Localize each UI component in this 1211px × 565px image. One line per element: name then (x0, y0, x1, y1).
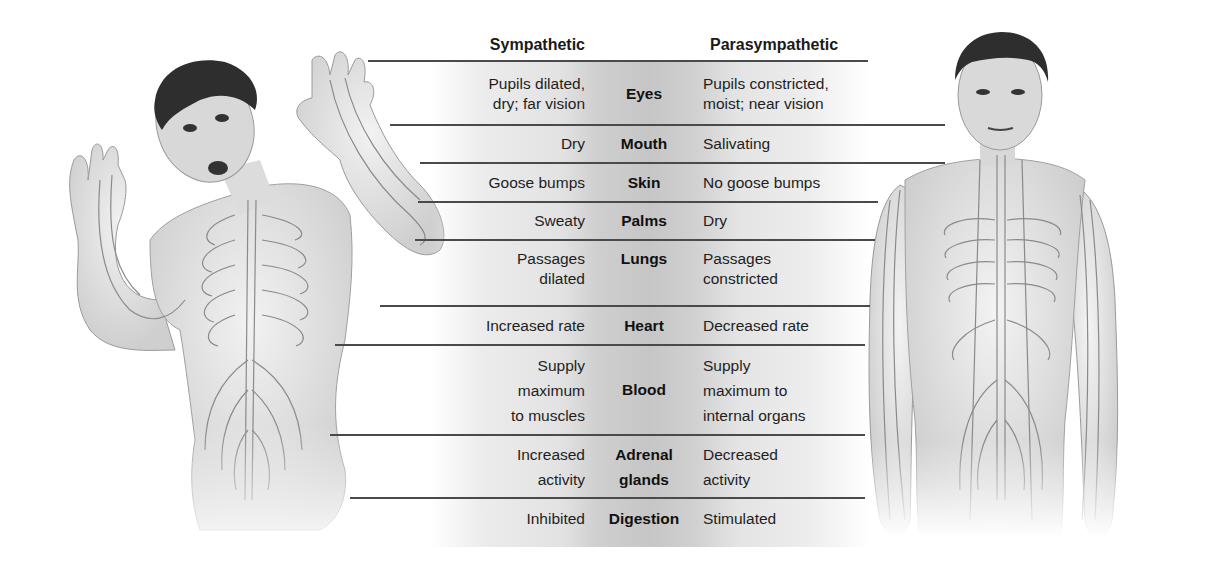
organ-label: Skin (585, 173, 703, 193)
parasympathetic-effect: Decreased activity (703, 442, 870, 492)
parasympathetic-effect: Dry (703, 211, 870, 231)
sympathetic-effect: Passages dilated (430, 249, 585, 289)
parasympathetic-effect: Decreased rate (703, 316, 870, 336)
parasympathetic-figure-illustration (850, 0, 1211, 565)
table-row-digestion: Inhibited Digestion Stimulated (430, 499, 870, 539)
table-row-lungs: Passages dilated Lungs Passages constric… (430, 241, 870, 305)
organ-label: Heart (585, 316, 703, 336)
sympathetic-figure-illustration (0, 0, 470, 565)
sympathetic-effect: Goose bumps (430, 173, 585, 193)
table-row-adrenal-glands: Increased activity Adrenal glands Decrea… (430, 436, 870, 497)
organ-label: Mouth (585, 134, 703, 154)
parasympathetic-effect: Passages constricted (703, 249, 870, 289)
parasympathetic-effect: Pupils constricted, moist; near vision (703, 74, 870, 114)
sympathetic-effect: Dry (430, 134, 585, 154)
parasympathetic-effect: No goose bumps (703, 173, 870, 193)
organ-label: Palms (585, 211, 703, 231)
sympathetic-column-header: Sympathetic (485, 36, 585, 54)
organ-label: Lungs (585, 249, 703, 269)
parasympathetic-effect: Supply maximum to internal organs (703, 353, 870, 428)
row-divider (368, 60, 868, 62)
table-row-blood: Supply maximum to muscles Blood Supply m… (430, 346, 870, 434)
organ-label: Adrenal glands (585, 442, 703, 492)
sympathetic-effect: Pupils dilated, dry; far vision (430, 74, 585, 114)
organ-label: Digestion (585, 509, 703, 529)
sympathetic-effect: Increased activity (430, 442, 585, 492)
organ-label: Blood (585, 380, 703, 400)
table-row-palms: Sweaty Palms Dry (430, 203, 870, 239)
sympathetic-effect: Sweaty (430, 211, 585, 231)
table-row-skin: Goose bumps Skin No goose bumps (430, 164, 870, 201)
parasympathetic-effect: Salivating (703, 134, 870, 154)
table-row-eyes: Pupils dilated, dry; far vision Eyes Pup… (430, 63, 870, 124)
parasympathetic-effect: Stimulated (703, 509, 870, 529)
organ-label: Eyes (585, 84, 703, 104)
sympathetic-effect: Supply maximum to muscles (430, 353, 585, 428)
diagram: Sympathetic Parasympathetic Pupils dilat… (0, 0, 1211, 565)
sympathetic-effect: Inhibited (430, 509, 585, 529)
parasympathetic-column-header: Parasympathetic (710, 36, 838, 54)
sympathetic-effect: Increased rate (430, 316, 585, 336)
table-row-heart: Increased rate Heart Decreased rate (430, 307, 870, 344)
table-row-mouth: Dry Mouth Salivating (430, 126, 870, 162)
